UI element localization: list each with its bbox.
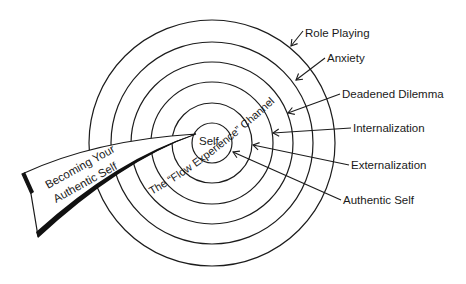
leader-line [233,152,341,200]
ring-label: Externalization [351,159,426,171]
ring-label: Authentic Self [343,194,415,206]
leader-line [288,94,340,113]
leader-line [296,58,325,80]
diagram-canvas: Becoming Your Authentic Self Self The “F… [0,0,466,284]
ring-label: Role Playing [305,27,370,39]
flow-experience-diagram: Becoming Your Authentic Self Self The “F… [0,0,466,284]
ring-labels: Role PlayingAnxietyDeadened DilemmaInter… [305,27,444,206]
ring-label: Anxiety [327,52,365,64]
ring-label: Deadened Dilemma [342,88,444,100]
ring-label: Internalization [353,122,425,134]
